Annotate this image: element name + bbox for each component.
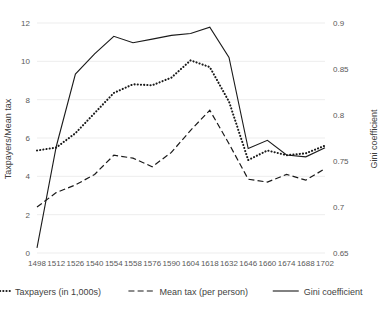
x-axis-tick-label: 1512 [47,259,65,268]
y-axis-left-title: Taxpayers/Mean tax [3,98,13,179]
x-axis-tick-label: 1498 [28,259,46,268]
x-axis-tick-label: 1576 [143,259,161,268]
gridlines [37,23,325,253]
y-axis-left-tick-labels: 024681012 [21,19,30,258]
y-axis-left-tick-label: 10 [21,57,30,66]
x-axis-tick-label: 1632 [220,259,238,268]
x-axis-tick-label: 1702 [316,259,334,268]
y-axis-right-tick-label: 0.8 [333,111,345,120]
y-axis-left-tick-label: 4 [26,172,31,181]
x-axis-tick-label: 1688 [297,259,315,268]
x-axis-tick-label: 1526 [67,259,85,268]
series-line-dotted [37,60,325,160]
x-axis-tick-label: 1604 [182,259,200,268]
line-chart: 024681012 0.650.70.750.80.850.9 14981512… [0,0,386,309]
x-axis-tick-label: 1590 [163,259,181,268]
y-axis-right-tick-label: 0.9 [333,19,345,28]
y-axis-right-tick-label: 0.65 [333,249,349,258]
x-axis-tick-label: 1554 [105,259,123,268]
x-axis-tick-label: 1660 [259,259,277,268]
x-axis-tick-label: 1618 [201,259,219,268]
y-axis-right-tick-label: 0.85 [333,65,349,74]
chart-figure: 024681012 0.650.70.750.80.850.9 14981512… [0,0,386,309]
legend-item-label: Taxpayers (in 1,000s) [15,287,101,297]
x-axis-tick-label: 1540 [86,259,104,268]
chart-legend: Taxpayers (in 1,000s)Mean tax (per perso… [0,287,363,297]
legend-item-label: Mean tax (per person) [159,287,248,297]
y-axis-right-tick-label: 0.7 [333,203,345,212]
x-axis-tick-label: 1646 [239,259,257,268]
y-axis-left-tick-label: 8 [26,96,31,105]
y-axis-right-tick-label: 0.75 [333,157,349,166]
x-axis-tick-labels: 1498151215261540155415581576159016041618… [28,259,334,268]
x-axis-tick-label: 1674 [278,259,296,268]
y-axis-right-tick-labels: 0.650.70.750.80.850.9 [333,19,349,258]
y-axis-right-title: Gini coefficient [369,109,379,168]
y-axis-left-tick-label: 6 [26,134,31,143]
series-line-dashed [37,110,325,207]
x-axis-tick-label: 1558 [124,259,142,268]
y-axis-left-tick-label: 12 [21,19,30,28]
y-axis-left-tick-label: 0 [26,249,31,258]
y-axis-left-tick-label: 2 [26,211,31,220]
legend-item-label: Gini coefficient [304,287,363,297]
